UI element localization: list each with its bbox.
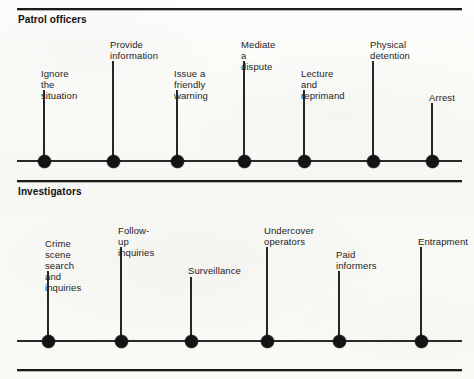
node-label: Lecture and reprimand <box>301 68 345 101</box>
node-label: Entrapment <box>418 236 468 247</box>
node-dot[interactable] <box>185 335 198 348</box>
discretion-scales-figure: Patrol officers Investigators Ignore the… <box>0 0 474 379</box>
node-label: Issue a friendly warning <box>174 68 208 101</box>
node-dot[interactable] <box>42 335 55 348</box>
node-label: Arrest <box>429 92 455 103</box>
node-stem <box>431 103 433 160</box>
node-label: Physical detention <box>370 39 410 61</box>
node-label: Mediate a dispute <box>241 39 276 72</box>
node-stem <box>372 61 374 160</box>
node-dot[interactable] <box>107 155 120 168</box>
node-label: Surveillance <box>188 265 241 276</box>
bottom-divider-rule <box>17 369 462 371</box>
scale-patrol-officers: Ignore the situationProvide informationI… <box>0 0 474 180</box>
node-dot[interactable] <box>367 155 380 168</box>
node-dot[interactable] <box>261 335 274 348</box>
node-dot[interactable] <box>115 335 128 348</box>
node-stem <box>47 271 49 340</box>
node-stem <box>338 271 340 340</box>
node-label: Provide information <box>110 39 158 61</box>
node-stem <box>120 247 122 340</box>
node-stem <box>112 61 114 160</box>
node-stem <box>420 247 422 340</box>
node-dot[interactable] <box>238 155 251 168</box>
node-stem <box>303 90 305 160</box>
node-dot[interactable] <box>171 155 184 168</box>
node-stem <box>266 247 268 340</box>
node-label: Ignore the situation <box>41 68 77 101</box>
node-label: Follow-up inquiries <box>118 225 154 258</box>
node-label: Crime scene search and inquiries <box>45 238 81 293</box>
scale-investigators: Crime scene search and inquiriesFollow-u… <box>0 180 474 369</box>
node-dot[interactable] <box>298 155 311 168</box>
node-label: Paid informers <box>336 249 377 271</box>
node-dot[interactable] <box>426 155 439 168</box>
node-dot[interactable] <box>415 335 428 348</box>
node-dot[interactable] <box>333 335 346 348</box>
node-stem <box>243 61 245 160</box>
node-stem <box>43 90 45 160</box>
node-stem <box>190 277 192 340</box>
node-dot[interactable] <box>38 155 51 168</box>
node-stem <box>176 90 178 160</box>
node-label: Undercover operators <box>264 225 314 247</box>
axis-line-investigators <box>17 340 462 342</box>
